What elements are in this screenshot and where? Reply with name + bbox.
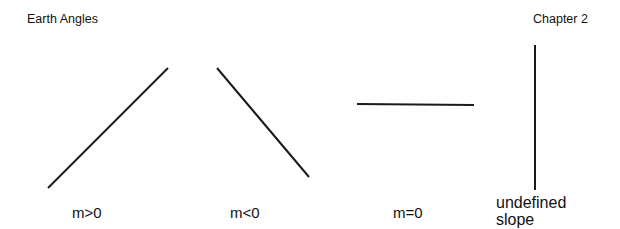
label-undefined-line2: slope — [496, 211, 566, 228]
label-undefined-slope: undefined slope — [496, 194, 566, 228]
label-undefined-line1: undefined — [496, 194, 566, 211]
positive-slope-line — [48, 68, 168, 188]
zero-slope-line — [357, 104, 474, 105]
label-negative-slope: m<0 — [230, 205, 260, 220]
label-positive-slope: m>0 — [72, 205, 102, 220]
negative-slope-line — [217, 68, 309, 177]
label-zero-slope: m=0 — [393, 205, 423, 220]
